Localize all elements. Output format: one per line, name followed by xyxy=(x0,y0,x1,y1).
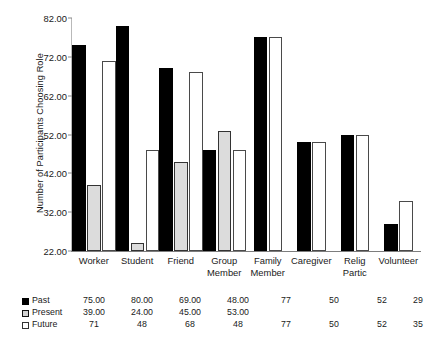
y-axis-tick-label: 72.00 xyxy=(44,51,67,62)
bar-future xyxy=(269,37,283,251)
bar-future xyxy=(146,150,160,251)
x-axis-category-label: Caregiver xyxy=(290,255,334,267)
legend-value-cell: 24.00 xyxy=(119,307,165,317)
legend-row: Present39.0024.0045.0053.00 xyxy=(0,307,427,319)
legend-value-cell: 29 xyxy=(395,295,427,305)
x-axis-category-label: Friend xyxy=(159,255,203,267)
bar-present xyxy=(218,131,232,251)
bar-present xyxy=(174,162,188,251)
bar-future xyxy=(399,201,413,251)
legend-row: Past75.0080.0069.0048.0077505229 xyxy=(0,295,427,307)
bar-present xyxy=(131,243,145,251)
category-label-line: Student xyxy=(116,255,160,267)
category-label-line: Worker xyxy=(72,255,116,267)
legend-value-cell: 68 xyxy=(167,319,213,329)
legend-value-cell: 48 xyxy=(119,319,165,329)
bar-future xyxy=(233,150,247,251)
legend-value-cell: 50 xyxy=(311,319,357,329)
y-axis-tick-label: 42.00 xyxy=(44,168,67,179)
bar-group xyxy=(203,18,247,251)
legend-series-name: Future xyxy=(32,319,57,329)
legend-data-table: Past75.0080.0069.0048.0077505229Present3… xyxy=(0,295,427,332)
y-axis-tick-label: 82.00 xyxy=(44,13,67,24)
category-label-line: Partic xyxy=(333,267,377,279)
legend-value-cell: 77 xyxy=(263,295,309,305)
bar-group xyxy=(159,18,203,251)
legend-value-cell: 80.00 xyxy=(119,295,165,305)
bar-group xyxy=(72,18,116,251)
bar-past xyxy=(159,68,173,251)
bar-past xyxy=(116,26,130,251)
bar-future xyxy=(102,61,116,251)
x-axis-category-label: Volunteer xyxy=(377,255,421,267)
x-axis-line xyxy=(71,251,421,252)
legend-value-cell: 39.00 xyxy=(71,307,117,317)
legend-swatch-future xyxy=(22,322,29,329)
bar-past xyxy=(72,45,86,251)
legend-value-cell: 50 xyxy=(311,295,357,305)
bar-group xyxy=(297,18,326,251)
x-axis-category-label: Student xyxy=(116,255,160,267)
legend-value-cell: 71 xyxy=(71,319,117,329)
bar-past xyxy=(341,135,355,252)
legend-value-cell: 45.00 xyxy=(167,307,213,317)
legend-swatch-present xyxy=(22,310,29,317)
category-label-line: Volunteer xyxy=(377,255,421,267)
bar-group xyxy=(116,18,160,251)
bar-future xyxy=(189,72,203,251)
legend-value-cell: 69.00 xyxy=(167,295,213,305)
category-label-line: Family xyxy=(246,255,290,267)
category-label-line: Caregiver xyxy=(290,255,334,267)
category-label-line: Group xyxy=(203,255,247,267)
legend-value-cell: 75.00 xyxy=(71,295,117,305)
legend-series-name: Past xyxy=(32,295,50,305)
legend-value-cell: 77 xyxy=(263,319,309,329)
legend-value-cell: 35 xyxy=(395,319,427,329)
legend-value-cell: 53.00 xyxy=(215,307,261,317)
x-axis-category-label: FamilyMember xyxy=(246,255,290,278)
legend-value-cell: 48 xyxy=(215,319,261,329)
y-axis-tick-label: 62.00 xyxy=(44,90,67,101)
legend-swatch-past xyxy=(22,298,29,305)
y-axis-tick-label: 52.00 xyxy=(44,129,67,140)
y-axis-tick-label: 32.00 xyxy=(44,207,67,218)
x-axis-category-label: Worker xyxy=(72,255,116,267)
bar-present xyxy=(87,185,101,251)
y-axis-tick-label: 22.00 xyxy=(44,246,67,257)
plot-area: 22.0032.0042.0052.0062.0072.0082.00 xyxy=(72,18,420,251)
category-label-line: Friend xyxy=(159,255,203,267)
bar-past xyxy=(297,142,311,251)
category-label-line: Member xyxy=(246,267,290,279)
bar-group xyxy=(254,18,283,251)
category-label-line: Member xyxy=(203,267,247,279)
category-label-line: Relig xyxy=(333,255,377,267)
legend-row: Future7148684877505235 xyxy=(0,319,427,331)
x-axis-category-label: GroupMember xyxy=(203,255,247,278)
bar-chart-figure: Number of Participants Choosing Role 22.… xyxy=(0,0,427,349)
bar-past xyxy=(203,150,217,251)
bar-group xyxy=(384,18,413,251)
bar-past xyxy=(384,224,398,251)
bar-past xyxy=(254,37,268,251)
x-axis-category-label: ReligPartic xyxy=(333,255,377,278)
bar-group xyxy=(341,18,370,251)
legend-series-name: Present xyxy=(32,307,62,317)
legend-value-cell: 48.00 xyxy=(215,295,261,305)
bar-future xyxy=(356,135,370,252)
bar-future xyxy=(312,142,326,251)
